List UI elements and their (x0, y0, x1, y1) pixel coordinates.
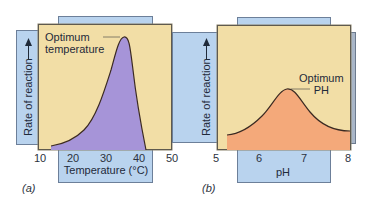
tick-label: 8 (345, 152, 351, 164)
up-arrow-icon (203, 38, 211, 47)
annotation-line-1: Optimum (299, 72, 344, 84)
panel-b-xlabel: pH (276, 166, 290, 178)
ph-curve (0, 0, 375, 206)
optimum-ph-label: Optimum PH (299, 72, 344, 96)
panel-b-y-arrow-shaft (206, 46, 207, 60)
tick-label: 5 (213, 152, 219, 164)
panel-b-tag: (b) (202, 182, 215, 194)
tick-label: 7 (301, 152, 307, 164)
panel-b-ylabel: Rate of reaction (200, 58, 212, 136)
annotation-line-2: PH (299, 84, 344, 96)
tick-label: 6 (256, 152, 262, 164)
